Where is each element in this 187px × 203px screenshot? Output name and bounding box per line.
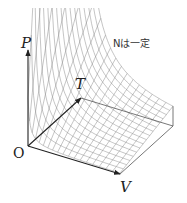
constant-n-note: Nは一定 bbox=[113, 37, 150, 49]
pressure-surface-mesh bbox=[28, 0, 173, 174]
ideal-gas-surface-diagram: P T V O Nは一定 bbox=[0, 0, 187, 203]
p-axis-label: P bbox=[20, 34, 32, 52]
isochore-line bbox=[30, 0, 83, 121]
base-edge bbox=[81, 98, 173, 126]
isotherm-curve bbox=[41, 0, 133, 156]
origin-label: O bbox=[13, 145, 24, 161]
isotherm-curve bbox=[55, 0, 147, 140]
isotherm-curve bbox=[51, 0, 143, 144]
isochore-line bbox=[28, 0, 81, 98]
v-axis bbox=[28, 146, 120, 174]
base-edge bbox=[120, 126, 173, 174]
isochore-line bbox=[36, 0, 89, 139]
isochore-line bbox=[58, 48, 111, 152]
t-axis-label: T bbox=[75, 75, 86, 93]
v-axis-label: V bbox=[120, 178, 133, 196]
